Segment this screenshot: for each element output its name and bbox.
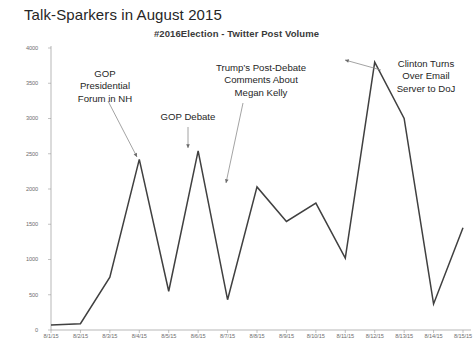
y-axis-tick-label: 2500	[12, 151, 38, 157]
x-axis-tick-label: 8/7/15	[213, 333, 243, 339]
line-chart-plot	[0, 0, 473, 363]
x-axis-tick-label: 8/13/15	[389, 333, 419, 339]
x-axis-tick-label: 8/1/15	[36, 333, 66, 339]
x-axis-tick-label: 8/9/15	[271, 333, 301, 339]
x-axis-tick-label: 8/3/15	[95, 333, 125, 339]
annotation-leader-line	[108, 101, 137, 157]
x-axis-tick-label: 8/12/15	[360, 333, 390, 339]
y-axis-tick-label: 1000	[12, 256, 38, 262]
y-axis-tick-label: 3500	[12, 80, 38, 86]
y-axis-tick-label: 500	[12, 292, 38, 298]
annotation-gop-presidential-forum: GOP Presidential Forum in NH	[57, 68, 153, 105]
annotation-arrow-icon	[225, 179, 229, 183]
y-axis-tick-label: 2000	[12, 186, 38, 192]
annotation-gop-debate: GOP Debate	[144, 111, 232, 123]
y-axis-tick-label: 3000	[12, 115, 38, 121]
x-axis-tick-label: 8/15/15	[448, 333, 473, 339]
annotation-arrow-icon	[186, 144, 190, 148]
annotation-clinton-email-server: Clinton Turns Over Email Server to DoJ	[379, 58, 473, 95]
footer-strip	[0, 352, 473, 363]
slide-canvas: Talk-Sparkers in August 2015 #2016Electi…	[0, 0, 473, 363]
x-axis-tick-label: 8/8/15	[242, 333, 272, 339]
x-axis-tick-label: 8/10/15	[301, 333, 331, 339]
x-axis-tick-label: 8/6/15	[183, 333, 213, 339]
y-axis-tick-label: 1500	[12, 221, 38, 227]
x-axis-tick-label: 8/5/15	[154, 333, 184, 339]
y-axis-tick-label: 0	[12, 327, 38, 333]
annotation-trump-comments: Trump’s Post-Debate Comments About Megan…	[205, 62, 317, 99]
x-axis-tick-label: 8/14/15	[419, 333, 449, 339]
x-axis-tick-label: 8/11/15	[330, 333, 360, 339]
y-axis-tick-label: 4000	[12, 45, 38, 51]
x-axis-tick-label: 8/2/15	[65, 333, 95, 339]
x-axis-tick-label: 8/4/15	[124, 333, 154, 339]
